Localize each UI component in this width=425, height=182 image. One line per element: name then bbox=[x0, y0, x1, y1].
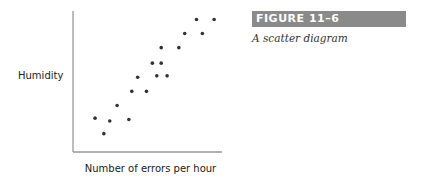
figure-label: FIGURE 11–6 bbox=[252, 11, 406, 27]
data-point bbox=[155, 74, 159, 78]
data-point bbox=[102, 132, 106, 136]
data-point bbox=[165, 74, 169, 78]
data-point bbox=[145, 90, 149, 94]
data-points bbox=[93, 18, 216, 136]
data-point bbox=[130, 90, 134, 94]
data-point bbox=[151, 61, 155, 65]
data-point bbox=[127, 118, 131, 122]
data-point bbox=[177, 46, 181, 50]
data-point bbox=[159, 46, 163, 50]
data-point bbox=[201, 32, 205, 36]
data-point bbox=[108, 119, 112, 123]
y-axis-label: Humidity bbox=[18, 70, 62, 81]
x-axis-label: Number of errors per hour bbox=[73, 163, 228, 174]
scatter-plot bbox=[0, 0, 425, 182]
data-point bbox=[115, 104, 119, 108]
data-point bbox=[212, 18, 216, 22]
figure-caption: A scatter diagram bbox=[252, 32, 348, 44]
data-point bbox=[183, 32, 187, 36]
data-point bbox=[93, 116, 97, 120]
data-point bbox=[195, 18, 199, 22]
data-point bbox=[136, 75, 140, 79]
data-point bbox=[159, 61, 163, 65]
